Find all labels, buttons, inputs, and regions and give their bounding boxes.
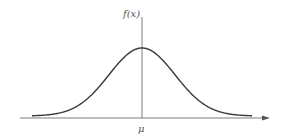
y-axis-label: f(x) bbox=[123, 9, 140, 19]
x-tick-mu-label: μ bbox=[138, 124, 145, 134]
x-axis-arrow-icon bbox=[262, 116, 270, 121]
diagram-canvas bbox=[0, 0, 283, 139]
